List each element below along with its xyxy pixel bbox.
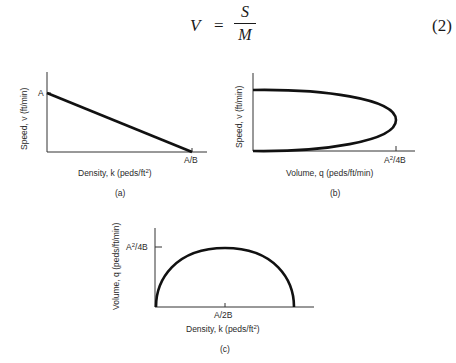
panel-c: A2/4B A/2B Density, k (peds/ft2) Volume,… bbox=[111, 222, 314, 354]
panel-b-ylabel: Speed, v (ft/min) bbox=[234, 85, 244, 148]
panel-c-ytick-label: A2/4B bbox=[126, 242, 148, 252]
panel-a-xlabel: Density, k (peds/ft2) bbox=[78, 168, 152, 178]
panel-c-volume-density-curve bbox=[156, 248, 294, 307]
panel-b-caption: (b) bbox=[330, 188, 341, 198]
panel-c-ylabel: Volume, q (peds/ft/min) bbox=[111, 222, 121, 310]
panel-a-xtick-label: A/B bbox=[184, 155, 198, 165]
panel-c-caption: (c) bbox=[220, 344, 230, 354]
panel-b-speed-volume-curve bbox=[253, 90, 396, 151]
panel-b-xlabel: Volume, q (peds/ft/min) bbox=[286, 168, 374, 178]
panel-c-xlabel: Density, k (peds/ft2) bbox=[186, 324, 260, 334]
panel-a-caption: (a) bbox=[115, 188, 126, 198]
panel-a-ylabel: Speed, v (ft/min) bbox=[19, 87, 29, 150]
panel-a-speed-density-line bbox=[47, 93, 192, 152]
panel-a-ytick-label: A bbox=[38, 88, 44, 98]
panel-a: A A/B Density, k (peds/ft2) Speed, v (ft… bbox=[19, 72, 207, 198]
panel-b: A2/4B Volume, q (peds/ft/min) Speed, v (… bbox=[234, 73, 415, 198]
panel-c-xtick-label: A/2B bbox=[214, 310, 233, 320]
diagram-canvas: A A/B Density, k (peds/ft2) Speed, v (ft… bbox=[0, 0, 456, 363]
panel-b-xtick-label: A2/4B bbox=[384, 155, 406, 165]
